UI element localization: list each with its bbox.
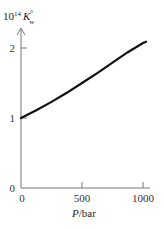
chart: 1014K°w 012 05001000 P/bar: [0, 0, 164, 229]
x-ticks: 05001000: [19, 182, 154, 204]
x-tick-label: 0: [19, 192, 25, 204]
y-ticks: 012: [10, 42, 28, 194]
y-tick-label: 1: [10, 112, 16, 124]
y-tick-label: 2: [10, 42, 16, 54]
x-tick-label: 1000: [132, 192, 155, 204]
y-tick-label: 0: [10, 182, 16, 194]
data-curve: [21, 42, 146, 118]
x-axis-label: P/bar: [71, 207, 96, 219]
x-tick-label: 500: [74, 192, 91, 204]
y-axis-label: 1014K°w: [3, 9, 35, 26]
y-axis: [17, 28, 25, 188]
